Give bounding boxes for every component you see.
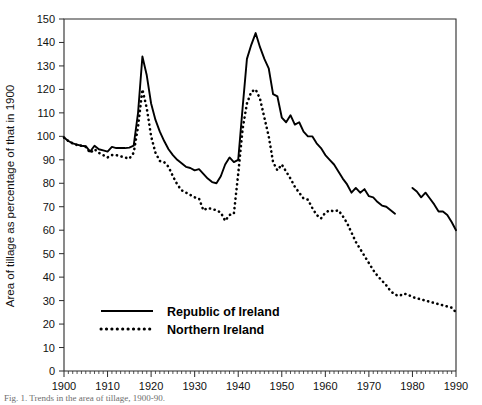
tillage-trend-line-chart: 0102030405060708090100110120130140150 19…: [0, 0, 482, 405]
x-axis-tick-label: 1980: [400, 380, 424, 392]
x-axis-tick-label: 1930: [182, 380, 206, 392]
y-axis-tick-label: 60: [43, 224, 55, 236]
x-axis-tick-label: 1960: [313, 380, 337, 392]
x-axis-tick-label: 1950: [270, 380, 294, 392]
y-axis-tick-label: 150: [37, 13, 55, 25]
x-axis-tick-label: 1970: [357, 380, 381, 392]
y-axis-tick-label: 140: [37, 36, 55, 48]
legend-label-northern-ireland: Northern Ireland: [167, 323, 264, 337]
x-axis-tick-label: 1900: [52, 380, 76, 392]
y-axis-tick-label: 80: [43, 177, 55, 189]
y-axis-title: Area of tillage as percentage of that in…: [4, 85, 16, 308]
legend-label-republic-of-ireland: Republic of Ireland: [167, 305, 280, 319]
y-axis-tick-label: 10: [43, 342, 55, 354]
y-axis-tick-label: 70: [43, 201, 55, 213]
x-axis-tick-label: 1990: [444, 380, 468, 392]
y-axis-tick-label: 130: [37, 60, 55, 72]
y-axis-tick-label: 120: [37, 83, 55, 95]
y-axis-tick-label: 30: [43, 295, 55, 307]
y-axis-tick-label: 50: [43, 248, 55, 260]
y-axis-tick-label: 100: [37, 130, 55, 142]
y-axis-tick-label: 20: [43, 318, 55, 330]
chart-background: [0, 0, 482, 405]
y-axis-tick-label: 90: [43, 154, 55, 166]
figure-caption: Fig. 1. Trends in the area of tillage, 1…: [4, 393, 165, 403]
y-axis-tick-label: 40: [43, 271, 55, 283]
x-axis-tick-label: 1920: [139, 380, 163, 392]
y-axis-tick-label: 110: [37, 107, 55, 119]
x-axis-tick-label: 1910: [95, 380, 119, 392]
x-axis-tick-label: 1940: [226, 380, 250, 392]
figure-container: 0102030405060708090100110120130140150 19…: [0, 0, 482, 405]
y-axis-tick-label: 0: [49, 365, 55, 377]
